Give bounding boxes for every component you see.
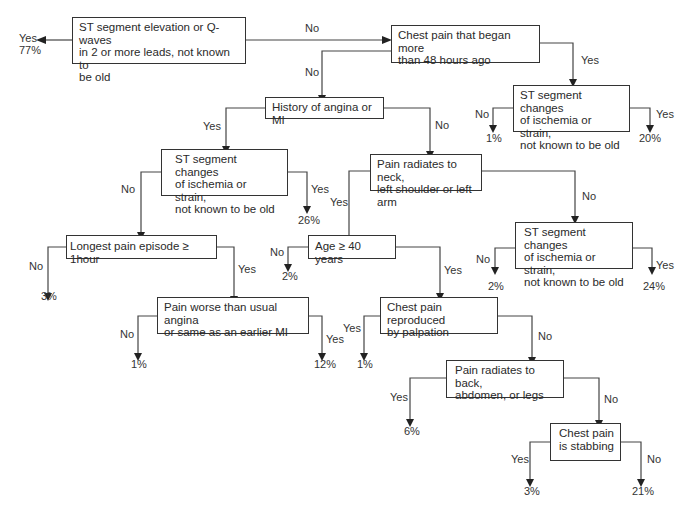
- arrow-n11-no: [497, 316, 532, 358]
- arrow-n8-yes: [395, 247, 440, 294]
- edge-label-yes: Yes: [656, 259, 674, 271]
- arrow-n6-no: [481, 171, 575, 217]
- edge-label-yes: Yes: [511, 453, 529, 465]
- edge-label-no: No: [305, 66, 319, 78]
- outcome-percentage: 1%: [486, 132, 502, 144]
- outcome-percentage: 21%: [632, 485, 654, 497]
- edge-label-yes: Yes: [390, 391, 408, 403]
- edge-label-no: No: [270, 246, 284, 258]
- outcome-percentage: 12%: [314, 358, 336, 370]
- edge-label-yes: Yes: [326, 333, 344, 345]
- outcome-percentage: 3%: [41, 290, 57, 302]
- edge-label-yes: Yes: [343, 322, 361, 334]
- outcome-percentage: 20%: [639, 132, 661, 144]
- edge-label-no: No: [435, 119, 449, 131]
- node-pain-radiates-neck: Pain radiates to neck, left shoulder or …: [370, 154, 482, 191]
- node-st-changes-1: ST segment changes of ischemia or strain…: [513, 85, 630, 132]
- arrow-n8-no: [288, 247, 309, 265]
- arrow-n11-yes: [364, 316, 380, 354]
- arrow-n3-no: [493, 108, 513, 126]
- node-chest-pain-stabbing: Chest pain is stabbing: [550, 423, 621, 461]
- node-age-40: Age ≥ 40 years: [308, 235, 396, 259]
- arrow-n12-no: [563, 378, 599, 421]
- arrow-n7-yes: [216, 247, 234, 297]
- arrow-n5-no: [141, 172, 162, 233]
- edge-label-no: No: [476, 253, 490, 265]
- edge-label-yes: Yes: [19, 32, 37, 44]
- arrow-n10-yes: [308, 316, 322, 354]
- edge-label-no: No: [121, 183, 135, 195]
- node-st-elevation-q-waves: ST segment elevation or Q-waves in 2 or …: [72, 17, 246, 64]
- arrow-n9-yes: [632, 248, 652, 268]
- node-pain-radiates-back: Pain radiates to back, abdomen, or legs: [446, 360, 564, 398]
- arrow-n13-no: [621, 442, 641, 480]
- outcome-percentage: 1%: [131, 358, 147, 370]
- node-st-changes-2: ST segment changes of ischemia or strain…: [161, 149, 288, 196]
- arrow-n13-yes: [530, 442, 550, 480]
- edge-label-no: No: [29, 260, 43, 272]
- arrow-n10-no: [138, 316, 157, 354]
- outcome-percentage: 1%: [357, 358, 373, 370]
- edge-label-no: No: [475, 108, 489, 120]
- node-history-angina-mi: History of angina or MI: [265, 97, 384, 119]
- edge-label-yes: Yes: [330, 196, 348, 208]
- edge-label-no: No: [305, 22, 319, 34]
- edge-label-no: No: [120, 328, 134, 340]
- arrow-n4-yes: [226, 108, 266, 147]
- outcome-percentage: 2%: [282, 270, 298, 282]
- edge-label-yes: Yes: [656, 108, 674, 120]
- node-pain-reproduced-palpation: Chest pain reproduced by palpation: [380, 297, 498, 334]
- node-longest-pain-episode: Longest pain episode ≥ 1hour: [66, 235, 217, 259]
- outcome-percentage: 26%: [298, 214, 320, 226]
- arrow-n7-no: [48, 247, 66, 294]
- node-pain-began-48h: Chest pain that began more than 48 hours…: [391, 25, 540, 63]
- arrow-n2-no: [322, 51, 392, 96]
- edge-label-yes: Yes: [311, 183, 329, 195]
- outcome-percentage: 6%: [404, 425, 420, 437]
- outcome-percentage: 77%: [19, 44, 41, 56]
- arrowhead-icon: [36, 36, 46, 44]
- edge-label-yes: Yes: [444, 264, 462, 276]
- outcome-percentage: 3%: [524, 485, 540, 497]
- outcome-percentage: 2%: [488, 280, 504, 292]
- edge-label-yes: Yes: [203, 120, 221, 132]
- node-pain-worse-than-angina: Pain worse than usual angina or same as …: [157, 297, 309, 334]
- edge-label-yes: Yes: [581, 54, 599, 66]
- edge-label-no: No: [582, 190, 596, 202]
- edge-label-no: No: [647, 453, 661, 465]
- arrow-n12-yes: [410, 378, 446, 420]
- arrow-n5-yes: [287, 172, 307, 207]
- outcome-percentage: 24%: [643, 280, 665, 292]
- edge-label-no: No: [604, 393, 618, 405]
- node-st-changes-3: ST segment changes of ischemia or strain…: [515, 222, 633, 269]
- arrow-n4-no: [383, 108, 430, 152]
- arrow-n9-no: [495, 248, 516, 268]
- edge-label-no: No: [538, 330, 552, 342]
- arrow-n6-yes: [349, 171, 370, 238]
- arrow-n3-yes: [629, 108, 650, 126]
- edge-label-yes: Yes: [238, 263, 256, 275]
- arrow-n2-yes: [540, 43, 573, 80]
